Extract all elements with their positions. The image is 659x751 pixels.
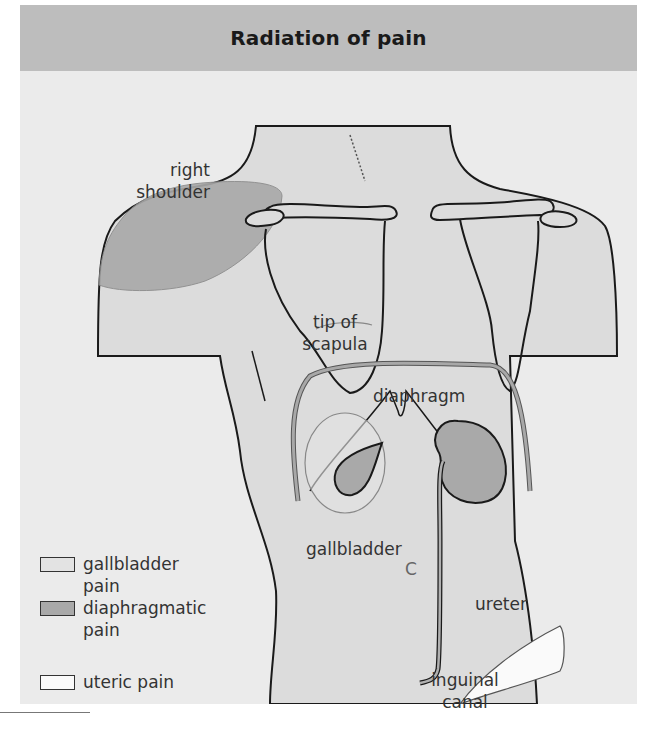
legend-item-diaphragmatic-pain: diaphragmatic pain (40, 597, 203, 641)
label-c-mark: C (405, 558, 417, 580)
label-inguinal-canal: inguinal canal (425, 669, 505, 713)
page-edge-line (0, 712, 90, 713)
figure-title: Radiation of pain (230, 26, 427, 50)
label-tip-of-scapula: tip of scapula (300, 311, 370, 355)
header-bar: Radiation of pain (20, 5, 637, 71)
label-ureter: ureter (475, 593, 527, 615)
label-right-shoulder: right shoulder (130, 159, 210, 203)
gallbladder-pain-swatch (40, 557, 75, 572)
left-acromion (540, 211, 576, 227)
uteric-pain-swatch (40, 675, 75, 690)
diaphragmatic-pain-swatch (40, 601, 75, 616)
legend-item-gallbladder-pain: gallbladder pain (40, 553, 203, 597)
label-diaphragm: diaphragm (373, 385, 465, 407)
label-gallbladder: gallbladder (306, 538, 402, 560)
legend-item-uteric-pain: uteric pain (40, 671, 203, 693)
figure-frame: Radiation of pain (20, 5, 637, 704)
